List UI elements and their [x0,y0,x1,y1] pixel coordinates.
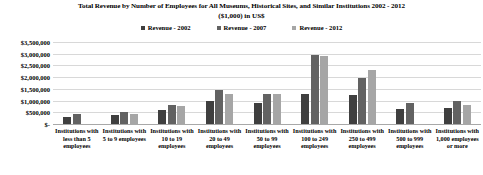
y-axis-tick-label: $2,000,000 [21,74,50,81]
revenue-bar-chart: Total Revenue by Number of Employees for… [0,0,483,175]
bar[interactable] [453,101,461,124]
bar-group [196,36,244,126]
y-axis-tick-label: $2,500,000 [21,62,50,69]
legend-item-0[interactable]: Revenue - 2002 [141,24,191,32]
bar[interactable] [111,115,119,124]
plot-wrapper: $3,500,000$3,000,000$2,500,000$2,000,000… [0,38,483,126]
bar[interactable] [120,112,128,124]
legend-label: Revenue - 2007 [224,24,267,32]
x-axis-category-label-7: Institutions with 500 to 999 employees [386,127,434,150]
bar[interactable] [406,103,414,124]
chart-title-block: Total Revenue by Number of Employees for… [0,2,483,21]
x-axis-category-label-5: Institutions with 100 to 249 employees [291,127,339,150]
bar[interactable] [130,114,138,124]
y-axis-tick-label: $3,000,000 [21,50,50,57]
bar[interactable] [215,90,223,124]
x-axis-category-label-3: Institutions with 20 to 49 employees [196,127,244,150]
y-axis-tick-label: $1,000,000 [21,97,50,104]
bar[interactable] [368,70,376,124]
bar-group [53,36,101,126]
bar[interactable] [320,56,328,124]
bar[interactable] [177,106,185,124]
bar-group [386,36,434,126]
bar[interactable] [349,95,357,124]
legend-swatch-icon [217,26,221,30]
y-axis-tick-label: $- [45,121,50,128]
bar[interactable] [396,109,404,124]
bar[interactable] [263,94,271,124]
legend-swatch-icon [141,26,145,30]
bar-group [101,36,149,126]
bar[interactable] [311,55,319,124]
bar[interactable] [168,105,176,124]
bar[interactable] [463,105,471,124]
legend-item-2[interactable]: Revenue - 2012 [292,24,342,32]
page-title: Total Revenue by Number of Employees for… [0,2,483,12]
legend-swatch-icon [292,26,296,30]
bar[interactable] [254,103,262,124]
bar[interactable] [63,117,71,124]
x-axis-category-label-4: Institutions with 50 to 99 employees [243,127,291,150]
bar[interactable] [444,108,452,124]
bar-group [338,36,386,126]
legend-label: Revenue - 2002 [148,24,191,32]
chart-legend: Revenue - 2002Revenue - 2007Revenue - 20… [0,24,483,32]
bars-layer [53,38,481,126]
bar[interactable] [301,94,309,124]
y-axis-tick-label: $1,500,000 [21,85,50,92]
bar-group [291,36,339,126]
y-axis: $3,500,000$3,000,000$2,500,000$2,000,000… [0,38,52,126]
legend-label: Revenue - 2012 [299,24,342,32]
x-axis-category-label-1: Institutions with 5 to 9 employees [101,127,149,150]
bar[interactable] [358,78,366,124]
legend-item-1[interactable]: Revenue - 2007 [217,24,267,32]
x-axis-categories: Institutions with less than 5 employeesI… [53,127,481,150]
x-axis-category-label-0: Institutions with less than 5 employees [53,127,101,150]
x-axis-category-label-2: Institutions with 10 to 19 employees [148,127,196,150]
chart-subtitle: ($1,000) in US$ [0,12,483,22]
bar-group [148,36,196,126]
bar[interactable] [206,101,214,124]
bar[interactable] [225,94,233,124]
bar-group [434,36,482,126]
bar[interactable] [73,114,81,124]
bar[interactable] [273,94,281,124]
x-axis-category-label-6: Institutions with 250 to 499 employees [338,127,386,150]
plot-area [53,38,481,126]
bar[interactable] [158,110,166,124]
bar-group [243,36,291,126]
y-axis-tick-label: $3,500,000 [21,39,50,46]
x-axis-category-label-8: Institutions with 1,000 employees or mor… [434,127,482,150]
y-axis-tick-label: $500,000 [26,109,50,116]
